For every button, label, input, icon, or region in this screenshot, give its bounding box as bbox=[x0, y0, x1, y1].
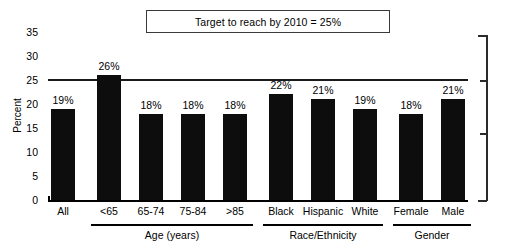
x-axis-category-label: >85 bbox=[226, 205, 244, 217]
bar-value-label: 19% bbox=[52, 94, 73, 106]
bar bbox=[269, 94, 293, 200]
bar bbox=[97, 75, 121, 200]
bar-value-label: 18% bbox=[182, 99, 203, 111]
bar bbox=[139, 114, 163, 200]
x-axis-category-label: Hispanic bbox=[303, 205, 343, 217]
right-axis-spine bbox=[486, 35, 488, 201]
bar-value-label: 21% bbox=[442, 84, 463, 96]
bar bbox=[223, 114, 247, 200]
bar bbox=[181, 114, 205, 200]
x-axis-category-label: All bbox=[57, 205, 69, 217]
bar-value-label: 19% bbox=[354, 94, 375, 106]
y-axis-tick-labels: 05101520253035 bbox=[0, 0, 48, 252]
group-bracket-rule bbox=[263, 224, 383, 226]
y-axis-tick-label: 35 bbox=[26, 27, 38, 38]
x-axis-category-label: White bbox=[352, 205, 379, 217]
y-axis-tick-label: 5 bbox=[32, 171, 38, 182]
bar-value-label: 18% bbox=[140, 99, 161, 111]
bar bbox=[353, 109, 377, 200]
x-axis-category-label: Male bbox=[442, 205, 465, 217]
bar-value-label: 18% bbox=[224, 99, 245, 111]
y-axis-tick-label: 15 bbox=[26, 123, 38, 134]
bar-value-label: 22% bbox=[270, 79, 291, 91]
bar bbox=[399, 114, 423, 200]
y-axis-tick-label: 30 bbox=[26, 51, 38, 62]
plot-area: 19%All26%<6518%65-7418%75-8418%>8522%Bla… bbox=[48, 0, 468, 252]
bar-value-label: 18% bbox=[400, 99, 421, 111]
bar bbox=[51, 109, 75, 200]
group-label: Race/Ethnicity bbox=[289, 229, 356, 241]
right-axis-tick-upper bbox=[480, 80, 487, 82]
y-axis-tick-label: 0 bbox=[32, 195, 38, 206]
group-bracket-rule bbox=[393, 224, 471, 226]
group-label: Age (years) bbox=[145, 229, 199, 241]
x-axis-baseline bbox=[48, 200, 468, 202]
x-axis-category-label: <65 bbox=[100, 205, 118, 217]
bar bbox=[441, 99, 465, 200]
group-label: Gender bbox=[414, 229, 449, 241]
x-axis-category-label: Black bbox=[268, 205, 294, 217]
group-bracket-rule bbox=[91, 224, 253, 226]
right-axis-bottom-cap bbox=[478, 200, 487, 202]
right-axis-tick-lower bbox=[480, 133, 487, 135]
bar-chart-figure: Target to reach by 2010 = 25% Percent 05… bbox=[0, 0, 506, 252]
y-axis-tick-label: 20 bbox=[26, 99, 38, 110]
y-axis-spine bbox=[48, 196, 50, 201]
x-axis-category-label: Female bbox=[393, 205, 428, 217]
bar-value-label: 21% bbox=[312, 84, 333, 96]
y-axis-tick-label: 25 bbox=[26, 75, 38, 86]
bar-value-label: 26% bbox=[98, 60, 119, 72]
x-axis-category-label: 75-84 bbox=[180, 205, 207, 217]
bar bbox=[311, 99, 335, 200]
x-axis-category-label: 65-74 bbox=[138, 205, 165, 217]
right-axis-top-cap bbox=[478, 35, 487, 37]
y-axis-tick-label: 10 bbox=[26, 147, 38, 158]
